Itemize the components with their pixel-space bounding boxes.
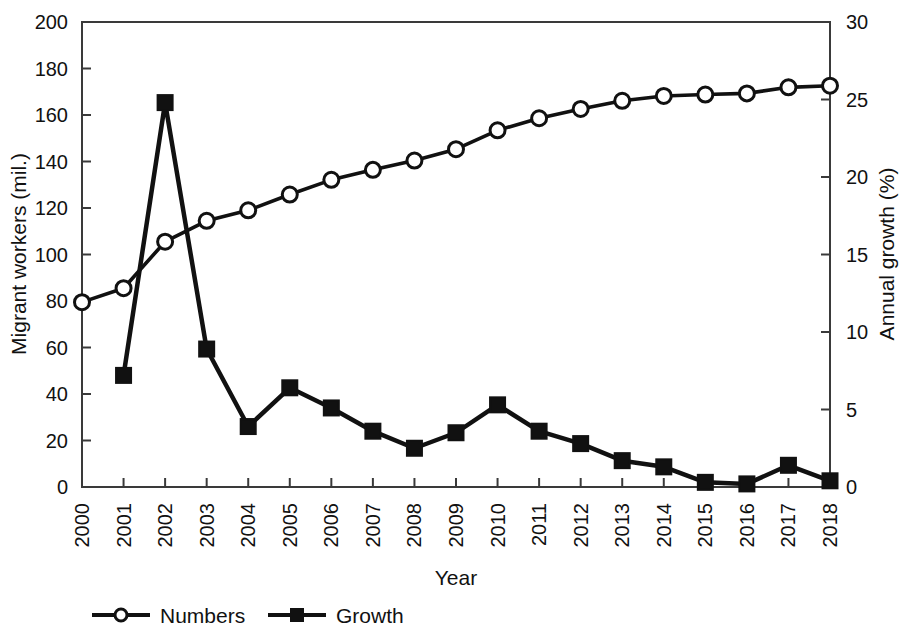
data-point-marker-square xyxy=(199,342,214,357)
legend-label-growth: Growth xyxy=(336,604,404,627)
y-axis-title: Migrant workers (mil.) xyxy=(7,153,30,355)
left-tick-label: 180 xyxy=(35,58,68,80)
left-tick-label: 200 xyxy=(35,11,68,33)
dual-axis-line-chart: 020406080100120140160180200 051015202530… xyxy=(0,0,911,631)
data-point-marker-circle xyxy=(75,295,90,310)
data-point-marker-circle xyxy=(116,281,131,296)
data-point-marker-square xyxy=(823,473,838,488)
left-tick-label: 140 xyxy=(35,151,68,173)
left-tick-label: 0 xyxy=(57,476,68,498)
x-tick-label-2016: 2016 xyxy=(736,503,758,548)
x-tick-label-2012: 2012 xyxy=(570,503,592,548)
data-point-marker-square xyxy=(698,475,713,490)
filled-square-icon xyxy=(291,609,303,621)
data-point-marker-circle xyxy=(490,123,505,138)
x-tick-label-2010: 2010 xyxy=(487,503,509,548)
data-point-marker-circle xyxy=(823,78,838,93)
x-tick-label-2007: 2007 xyxy=(362,503,384,548)
data-point-marker-square xyxy=(365,424,380,439)
right-tick-label: 25 xyxy=(846,89,868,111)
data-point-marker-circle xyxy=(615,93,630,108)
data-point-marker-circle xyxy=(739,86,754,101)
right-tick-label: 30 xyxy=(846,11,868,33)
data-point-marker-circle xyxy=(781,80,796,95)
data-point-marker-square xyxy=(739,476,754,491)
left-tick-label: 80 xyxy=(46,290,68,312)
x-tick-label-2000: 2000 xyxy=(71,503,93,548)
left-tick-label: 40 xyxy=(46,383,68,405)
data-point-marker-circle xyxy=(282,187,297,202)
data-point-marker-circle xyxy=(532,111,547,126)
x-tick-label-2003: 2003 xyxy=(196,503,218,548)
right-tick-label: 5 xyxy=(846,399,857,421)
data-point-marker-circle xyxy=(158,234,173,249)
right-tick-label: 15 xyxy=(846,244,868,266)
legend-label-numbers: Numbers xyxy=(160,604,245,627)
data-point-marker-square xyxy=(656,459,671,474)
data-point-marker-square xyxy=(532,424,547,439)
x-axis-title: Year xyxy=(435,566,477,589)
x-tick-label-2015: 2015 xyxy=(694,503,716,548)
data-point-marker-circle xyxy=(365,162,380,177)
data-point-marker-circle xyxy=(698,87,713,102)
data-point-marker-square xyxy=(282,380,297,395)
x-tick-label-2017: 2017 xyxy=(777,503,799,548)
data-point-marker-square xyxy=(490,397,505,412)
x-tick-label-2005: 2005 xyxy=(279,503,301,548)
data-point-marker-square xyxy=(449,425,464,440)
left-tick-label: 60 xyxy=(46,337,68,359)
left-tick-label: 160 xyxy=(35,104,68,126)
data-point-marker-circle xyxy=(656,88,671,103)
x-tick-label-2011: 2011 xyxy=(528,503,550,546)
x-tick-label-2014: 2014 xyxy=(653,503,675,548)
left-tick-label: 20 xyxy=(46,430,68,452)
data-point-marker-square xyxy=(158,95,173,110)
x-tick-label-2001: 2001 xyxy=(113,503,135,548)
data-point-marker-square xyxy=(241,419,256,434)
x-tick-label-2008: 2008 xyxy=(403,503,425,548)
data-point-marker-square xyxy=(781,458,796,473)
x-tick-label-2013: 2013 xyxy=(611,503,633,548)
data-point-marker-circle xyxy=(407,153,422,168)
data-point-marker-circle xyxy=(241,203,256,218)
x-tick-label-2018: 2018 xyxy=(819,503,841,548)
right-tick-label: 0 xyxy=(846,476,857,498)
data-point-marker-circle xyxy=(324,172,339,187)
data-point-marker-square xyxy=(407,441,422,456)
left-tick-label: 120 xyxy=(35,197,68,219)
chart-figure: 020406080100120140160180200 051015202530… xyxy=(0,0,911,631)
right-tick-label: 10 xyxy=(846,321,868,343)
y2-axis-title: Annual growth (%) xyxy=(875,168,898,341)
x-tick-label-2002: 2002 xyxy=(154,503,176,548)
data-point-marker-square xyxy=(615,453,630,468)
data-point-marker-square xyxy=(116,368,131,383)
left-tick-label: 100 xyxy=(35,244,68,266)
open-circle-icon xyxy=(115,609,127,621)
data-point-marker-square xyxy=(573,436,588,451)
data-point-marker-circle xyxy=(199,213,214,228)
data-point-marker-square xyxy=(324,400,339,415)
x-tick-label-2004: 2004 xyxy=(237,503,259,548)
data-point-marker-circle xyxy=(449,142,464,157)
data-point-marker-circle xyxy=(573,101,588,116)
x-tick-label-2009: 2009 xyxy=(445,503,467,548)
x-tick-label-2006: 2006 xyxy=(320,503,342,548)
right-tick-label: 20 xyxy=(846,166,868,188)
